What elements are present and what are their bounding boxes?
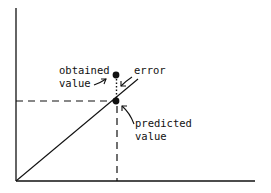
predicted-label-line2: value: [135, 130, 167, 142]
obtained-label-line2: value: [59, 77, 91, 89]
obtained-arrow-icon: [94, 79, 106, 85]
predicted-point: [113, 98, 120, 105]
error-arrow-icon: [121, 77, 132, 86]
regression-line: [16, 79, 138, 181]
obtained-label-line1: obtained: [59, 64, 110, 76]
predicted-arrow-icon: [122, 106, 134, 124]
predicted-label-line1: predicted: [135, 117, 192, 129]
regression-diagram: obtained value error predicted value: [0, 0, 271, 193]
obtained-point: [113, 72, 120, 79]
error-label: error: [134, 64, 166, 76]
